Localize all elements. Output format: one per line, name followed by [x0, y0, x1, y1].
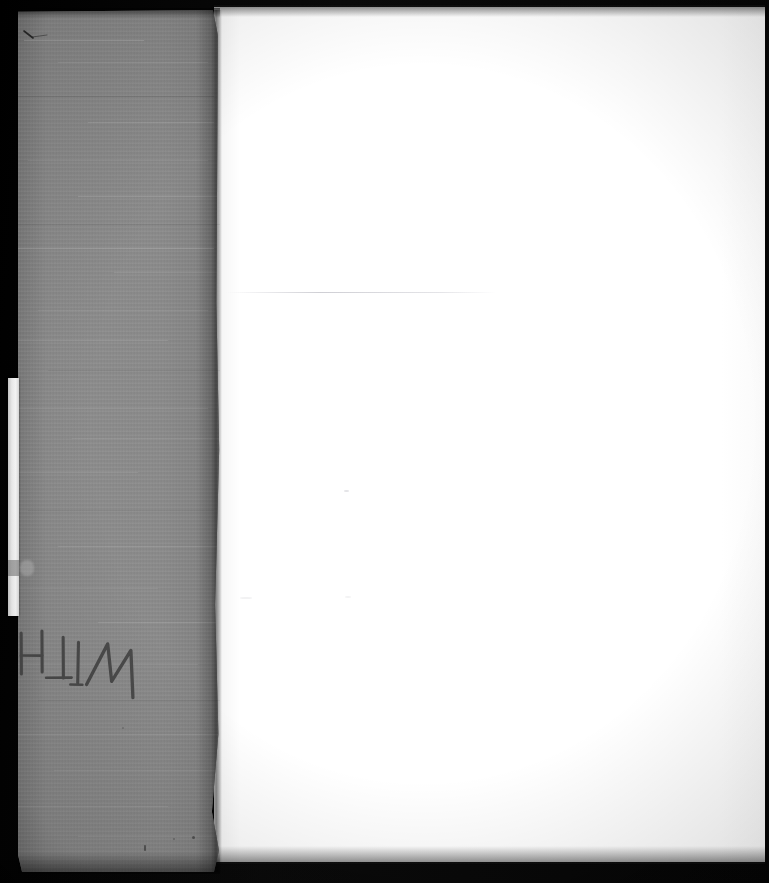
page-text [214, 7, 215, 8]
page-block-edge-notch [8, 560, 19, 576]
cover-dot-mark [192, 836, 195, 839]
cover-dot-mark [122, 727, 124, 729]
page-speck-mark [345, 596, 351, 598]
scanned-image-canvas: WITH [0, 0, 769, 883]
page-speck-mark [240, 597, 252, 599]
blank-page [214, 7, 765, 862]
cover-dot-mark [173, 838, 175, 840]
cover-smudge-mark [20, 560, 34, 576]
cover-dot-mark [144, 845, 146, 851]
page-crease-line [226, 292, 496, 293]
page-block-edge [8, 378, 19, 616]
page-speck-mark [344, 490, 349, 492]
book-cover [18, 10, 220, 872]
